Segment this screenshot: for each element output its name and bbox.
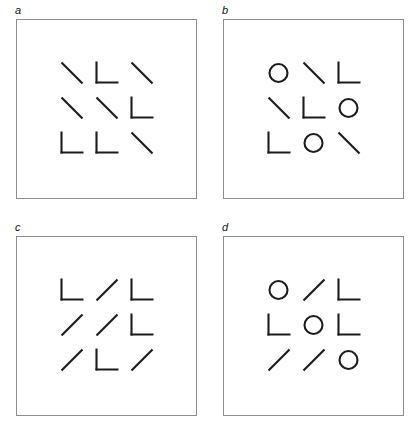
ell-glyph <box>124 274 159 309</box>
circle-glyph <box>296 309 331 344</box>
ell-glyph <box>331 57 366 92</box>
panel-b-frame <box>223 19 404 199</box>
circle-glyph <box>261 274 296 309</box>
circle-glyph <box>331 92 366 127</box>
ell-glyph <box>54 127 89 162</box>
panel-b-grid <box>261 57 366 162</box>
slash-glyph <box>124 344 159 379</box>
panel-a-frame <box>16 19 197 199</box>
backslash-glyph <box>124 127 159 162</box>
panel-b-label: b <box>222 3 228 17</box>
slash-glyph <box>261 344 296 379</box>
slash-glyph <box>54 309 89 344</box>
ell-glyph <box>54 274 89 309</box>
panel-d-frame <box>223 236 404 416</box>
panel-a: a <box>0 0 207 216</box>
backslash-glyph <box>296 57 331 92</box>
backslash-glyph <box>54 57 89 92</box>
slash-glyph <box>54 344 89 379</box>
panel-d-grid <box>261 274 366 379</box>
slash-glyph <box>296 274 331 309</box>
stimulus-figure: a b c d <box>0 0 414 433</box>
ell-glyph <box>124 92 159 127</box>
circle-glyph <box>331 344 366 379</box>
ell-glyph <box>331 274 366 309</box>
ell-glyph <box>89 344 124 379</box>
panel-a-grid <box>54 57 159 162</box>
backslash-glyph <box>331 127 366 162</box>
panel-d: d <box>207 217 414 433</box>
panel-c-frame <box>16 236 197 416</box>
backslash-glyph <box>54 92 89 127</box>
ell-glyph <box>331 309 366 344</box>
ell-glyph <box>89 57 124 92</box>
backslash-glyph <box>261 92 296 127</box>
slash-glyph <box>89 309 124 344</box>
panel-c-grid <box>54 274 159 379</box>
ell-glyph <box>296 92 331 127</box>
panel-c: c <box>0 217 207 433</box>
slash-glyph <box>89 274 124 309</box>
ell-glyph <box>261 127 296 162</box>
panel-b: b <box>207 0 414 216</box>
slash-glyph <box>296 344 331 379</box>
panel-c-label: c <box>15 220 21 234</box>
ell-glyph <box>124 309 159 344</box>
ell-glyph <box>89 127 124 162</box>
panel-a-label: a <box>15 3 21 17</box>
backslash-glyph <box>124 57 159 92</box>
circle-glyph <box>296 127 331 162</box>
backslash-glyph <box>89 92 124 127</box>
ell-glyph <box>261 309 296 344</box>
circle-glyph <box>261 57 296 92</box>
panel-d-label: d <box>222 220 228 234</box>
